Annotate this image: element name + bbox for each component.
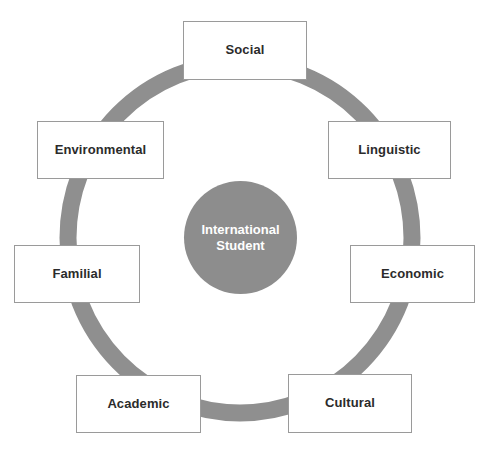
node-familial[interactable]: Familial bbox=[14, 245, 140, 303]
node-social-label: Social bbox=[226, 43, 265, 57]
center-node-label: International Student bbox=[201, 222, 279, 253]
node-familial-label: Familial bbox=[52, 267, 101, 281]
node-environmental-label: Environmental bbox=[55, 143, 147, 157]
center-node-international-student: International Student bbox=[184, 181, 297, 294]
node-cultural[interactable]: Cultural bbox=[288, 374, 412, 433]
node-linguistic-label: Linguistic bbox=[358, 143, 420, 157]
node-academic-label: Academic bbox=[107, 397, 169, 411]
node-economic-label: Economic bbox=[381, 267, 444, 281]
node-environmental[interactable]: Environmental bbox=[37, 121, 164, 179]
diagram-canvas: International Student Social Linguistic … bbox=[0, 0, 485, 464]
node-academic[interactable]: Academic bbox=[76, 375, 201, 433]
node-social[interactable]: Social bbox=[183, 21, 307, 80]
node-cultural-label: Cultural bbox=[325, 396, 375, 410]
node-economic[interactable]: Economic bbox=[350, 245, 475, 303]
node-linguistic[interactable]: Linguistic bbox=[328, 121, 451, 179]
